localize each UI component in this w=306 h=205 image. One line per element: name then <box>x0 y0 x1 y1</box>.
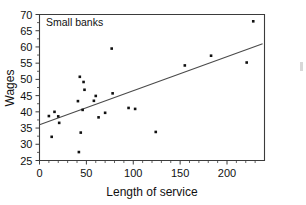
data-point <box>94 95 97 98</box>
data-point <box>245 61 248 64</box>
data-point <box>97 116 100 119</box>
data-point <box>53 111 56 114</box>
data-point <box>127 107 130 110</box>
data-point <box>50 136 53 139</box>
plot-frame <box>40 15 265 161</box>
y-tick-label: 30 <box>20 138 32 150</box>
y-tick-label: 25 <box>20 155 32 167</box>
data-point <box>134 108 137 111</box>
y-tick-label: 45 <box>20 90 32 102</box>
data-point <box>82 81 85 84</box>
y-tick-label: 70 <box>20 9 32 21</box>
y-tick-label: 55 <box>20 57 32 69</box>
data-point <box>79 131 82 134</box>
data-point <box>57 115 60 118</box>
y-tick-label: 40 <box>20 106 32 118</box>
y-axis: 25303540455055606570 <box>20 9 39 167</box>
regression-line <box>40 44 263 125</box>
x-tick-label: 200 <box>218 167 236 179</box>
x-tick-label: 0 <box>36 167 42 179</box>
x-axis-title: Length of service <box>106 185 198 199</box>
x-tick-label: 50 <box>80 167 92 179</box>
data-point <box>154 131 157 134</box>
data-point <box>77 100 80 103</box>
y-tick-label: 50 <box>20 73 32 85</box>
data-point <box>81 109 84 112</box>
scatter-plot-canvas: 25303540455055606570 050100150200 Length… <box>0 0 306 205</box>
data-point <box>184 64 187 67</box>
y-tick-label: 35 <box>20 122 32 134</box>
data-point <box>58 122 61 125</box>
annotation-small-banks: Small banks <box>46 16 103 28</box>
y-tick-label: 60 <box>20 41 32 53</box>
data-point <box>210 54 213 57</box>
data-point-series <box>48 20 255 153</box>
fit-line <box>40 44 263 125</box>
data-point <box>110 47 113 50</box>
data-point <box>79 75 82 78</box>
x-tick-label: 100 <box>124 167 142 179</box>
scatter-plot-figure: 25303540455055606570 050100150200 Length… <box>0 0 306 205</box>
x-tick-label: 150 <box>171 167 189 179</box>
y-tick-label: 65 <box>20 25 32 37</box>
data-point <box>252 20 255 23</box>
data-point <box>48 115 51 118</box>
scan-artifact <box>300 62 303 71</box>
data-point <box>78 151 81 154</box>
x-axis: 050100150200 <box>36 161 255 179</box>
data-point <box>104 112 107 115</box>
data-point <box>93 100 96 103</box>
data-point <box>111 92 114 95</box>
data-point <box>83 88 86 91</box>
y-axis-title: Wages <box>3 70 17 107</box>
